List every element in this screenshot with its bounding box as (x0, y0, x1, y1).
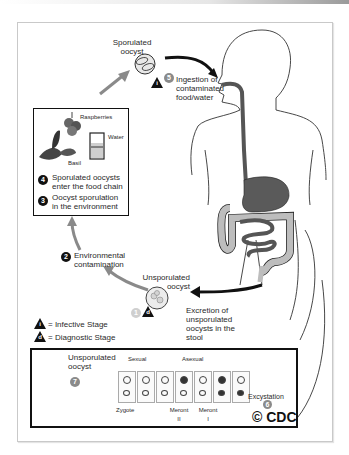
sporulated-oocyst-icon (135, 54, 155, 74)
water-glass-icon (90, 133, 104, 159)
legend-infective-text: = Infective Stage (48, 320, 108, 329)
step-2-text: Environmental contamination (74, 251, 144, 269)
stomach (242, 177, 289, 212)
stage-cell (156, 371, 174, 403)
step-3-badge: 3 (38, 196, 48, 206)
meront-i-label: Meront I (198, 406, 218, 424)
stage-cell (213, 371, 231, 403)
sexual-label: Sexual (128, 355, 146, 364)
asexual-label: Asexual (182, 355, 203, 364)
diagnostic-stage-icon: d (142, 306, 154, 317)
unsporulated-oocyst-bottom-label: Unsporulated oocyst (68, 353, 118, 371)
step-5-text: Ingestion of contaminated food/water (176, 75, 238, 102)
water-label: Water (108, 133, 124, 142)
legend-diagnostic-text: = Diagnostic Stage (48, 333, 115, 342)
zygote-label: Zygote (116, 406, 134, 415)
developmental-stages-strip (118, 371, 251, 403)
meront-ii-label: Meront II (168, 406, 190, 424)
step-2-badge: 2 (61, 252, 71, 262)
basil-label: Basil (68, 159, 81, 168)
stage-cell (194, 371, 212, 403)
sporulated-oocyst-label: Sporulated oocyst (110, 38, 154, 56)
small-intestine (240, 220, 275, 256)
step-1-text: Excretion of unsporulated oocysts in the… (186, 306, 246, 342)
step-7-badge: 7 (70, 377, 80, 387)
stage-cell (137, 371, 155, 403)
step-5-badge: 5 (164, 73, 174, 83)
step-4-badge: 4 (38, 175, 48, 185)
step-6-badge: 6 (263, 400, 272, 409)
food-chain-box: Raspberries Water Basil 4 Sporulated ooc… (33, 108, 129, 216)
legend-diagnostic-icon: d (34, 331, 46, 342)
step-1-badge: 1 (131, 308, 141, 318)
unsporulated-oocyst-label: Unsporulated oocyst (142, 273, 190, 291)
cdc-credit: © CDC (252, 409, 297, 425)
raspberries-label: Raspberries (80, 113, 112, 122)
stage-cell (175, 371, 193, 403)
raspberries-icon (64, 112, 81, 136)
infective-stage-icon: i (151, 77, 163, 88)
step-3-text: Oocyst sporulation in the environment (52, 193, 126, 211)
stage-cell (118, 371, 136, 403)
legend-infective-icon: i (34, 318, 46, 329)
step-4-text: Sporulated oocysts enter the food chain (52, 173, 126, 191)
